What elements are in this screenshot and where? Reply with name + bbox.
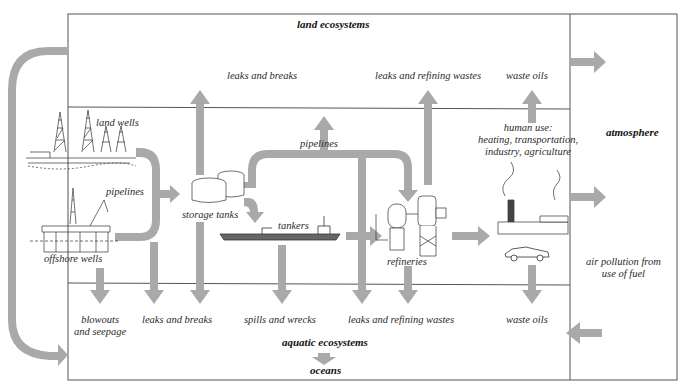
pipe-down-arrow (352, 158, 372, 304)
storage-tanks-drawing (192, 171, 244, 203)
offshore-wells-label: offshore wells (44, 253, 102, 265)
refinery-down-arrow (398, 266, 418, 304)
oil-pollution-diagram: land ecosystems atmosphere aquatic ecosy… (0, 0, 689, 392)
pipelines-left-label: pipelines (106, 186, 144, 198)
aquatic-leaks-breaks-label: leaks and breaks (142, 314, 212, 326)
leaks-breaks-land-arrow (190, 90, 210, 175)
atmosphere-to-aquatic-arrow (566, 322, 602, 344)
air-pollution-label: air pollution from use of fuel (586, 256, 661, 280)
storage-tanks-label: storage tanks (182, 209, 238, 221)
blowouts-label: blowouts and seepage (74, 314, 126, 338)
land-leaks-breaks-label: leaks and breaks (227, 70, 297, 82)
spills-arrow (272, 245, 292, 304)
aquatic-ecosystems-label: aquatic ecosystems (282, 336, 368, 348)
human-use-label: human use: heating, transportation, indu… (478, 122, 578, 158)
offshore-to-pipe-arrow (115, 198, 160, 241)
tanks-to-refineries-arrow (244, 150, 418, 202)
aquatic-waste-oils-label: waste oils (506, 314, 548, 326)
land-waste-oils-label: waste oils (506, 70, 548, 82)
land-ecosystems-label: land ecosystems (297, 18, 369, 30)
tankers-label: tankers (278, 220, 309, 232)
waste-oils-up-arrow (522, 90, 542, 123)
aquatic-leaks-refining-label: leaks and refining wastes (348, 314, 454, 326)
use-to-atmosphere-arrow (571, 186, 606, 208)
tanks-to-tankers-arrow (244, 198, 264, 223)
land-wells-label: land wells (96, 117, 139, 129)
refinery-up-arrow (418, 90, 438, 185)
refinery-drawing (376, 196, 446, 256)
leaks-breaks-aq-arrow1 (144, 242, 164, 304)
car-drawing (505, 247, 549, 261)
spills-wrecks-label: spills and wrecks (244, 314, 316, 326)
loop-arrow (8, 47, 68, 366)
factory-drawing (498, 162, 568, 234)
land-to-atmosphere-arrow (571, 51, 606, 73)
leaks-breaks-aq-arrow2 (190, 222, 210, 304)
oceans-label: oceans (310, 364, 341, 376)
atmosphere-label: atmosphere (606, 126, 659, 138)
refineries-label: refineries (387, 256, 427, 268)
blowouts-arrow (90, 268, 110, 304)
pipelines-top-label: pipelines (300, 138, 338, 150)
land-leaks-refining-label: leaks and refining wastes (375, 70, 481, 82)
refineries-to-use-arrow (452, 226, 490, 246)
